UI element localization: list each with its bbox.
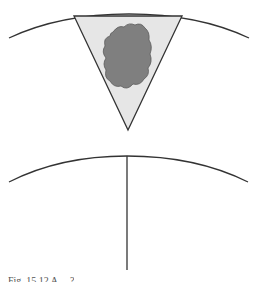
diagram-canvas xyxy=(0,0,258,282)
irregular-mass xyxy=(103,24,151,88)
top-panel xyxy=(9,14,249,130)
bottom-panel xyxy=(9,156,248,270)
figure-caption: Fig. 15.12 A ... ? xyxy=(8,276,74,282)
bottom-arc xyxy=(9,156,248,182)
